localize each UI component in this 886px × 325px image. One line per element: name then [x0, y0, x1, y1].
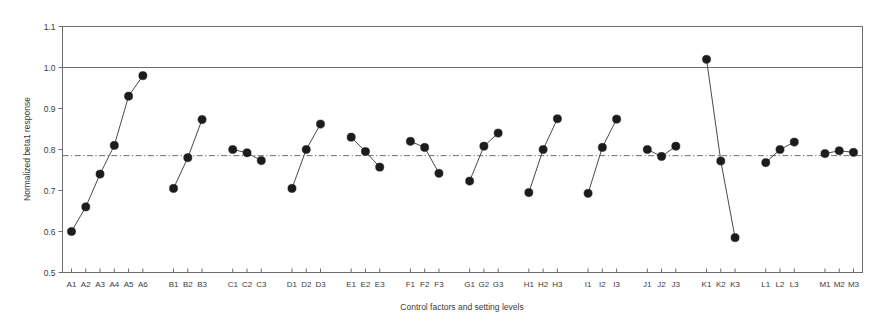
data-point-l1 — [762, 159, 770, 167]
data-point-a5 — [124, 92, 132, 100]
data-point-g2 — [480, 142, 488, 150]
data-point-j3 — [672, 142, 680, 150]
x-tick-label-c3: C3 — [256, 280, 267, 289]
x-tick-label-d1: D1 — [287, 280, 298, 289]
data-point-f1 — [406, 137, 414, 145]
y-tick-label: 0.8 — [44, 145, 56, 155]
x-tick-label-f1: F1 — [406, 280, 416, 289]
data-point-l2 — [776, 145, 784, 153]
data-point-a2 — [82, 203, 90, 211]
data-point-a6 — [139, 72, 147, 80]
data-point-k1 — [702, 55, 710, 63]
x-tick-label-h1: H1 — [524, 280, 535, 289]
x-tick-label-a3: A3 — [95, 280, 105, 289]
y-axis-title: Normalized beta1 response — [22, 97, 32, 201]
x-tick-label-g2: G2 — [479, 280, 490, 289]
x-tick-label-b3: B3 — [197, 280, 207, 289]
chart-background — [0, 0, 886, 325]
x-tick-label-j1: J1 — [643, 280, 652, 289]
data-point-h3 — [553, 115, 561, 123]
x-tick-label-d2: D2 — [301, 280, 312, 289]
x-tick-label-h2: H2 — [538, 280, 549, 289]
chart-figure: 0.50.60.70.80.91.01.1 A1A2A3A4A5A6B1B2B3… — [0, 0, 886, 325]
data-point-j1 — [643, 145, 651, 153]
data-point-g1 — [466, 177, 474, 185]
data-point-i3 — [613, 115, 621, 123]
data-point-h2 — [539, 145, 547, 153]
x-tick-label-a1: A1 — [67, 280, 77, 289]
x-tick-label-d3: D3 — [315, 280, 326, 289]
data-point-c2 — [243, 149, 251, 157]
x-tick-label-a6: A6 — [138, 280, 148, 289]
y-tick-label: 0.6 — [44, 227, 56, 237]
x-tick-label-m3: M3 — [848, 280, 860, 289]
data-point-m2 — [835, 147, 843, 155]
data-point-f3 — [435, 169, 443, 177]
data-point-a1 — [67, 227, 75, 235]
x-tick-label-f3: F3 — [434, 280, 444, 289]
x-tick-label-j3: J3 — [672, 280, 681, 289]
data-point-l3 — [790, 138, 798, 146]
data-point-a3 — [96, 170, 104, 178]
x-tick-label-m1: M1 — [819, 280, 831, 289]
x-tick-label-i2: I2 — [599, 280, 606, 289]
data-point-c1 — [229, 145, 237, 153]
data-point-f2 — [421, 143, 429, 151]
x-tick-label-i1: I1 — [585, 280, 592, 289]
data-point-d1 — [288, 184, 296, 192]
x-tick-label-a4: A4 — [109, 280, 119, 289]
x-tick-label-l3: L3 — [790, 280, 799, 289]
data-point-b1 — [169, 184, 177, 192]
data-point-g3 — [494, 129, 502, 137]
y-tick-label: 0.5 — [44, 268, 56, 278]
y-tick-label: 1.0 — [44, 63, 56, 73]
x-tick-label-k2: K2 — [716, 280, 726, 289]
x-tick-label-f2: F2 — [420, 280, 430, 289]
x-tick-label-h3: H3 — [552, 280, 563, 289]
x-tick-label-g3: G3 — [493, 280, 504, 289]
x-tick-label-a2: A2 — [81, 280, 91, 289]
data-point-d3 — [316, 120, 324, 128]
data-point-e3 — [376, 163, 384, 171]
data-point-b3 — [198, 115, 206, 123]
data-point-k3 — [731, 234, 739, 242]
x-tick-label-e2: E2 — [361, 280, 371, 289]
y-tick-label: 0.7 — [44, 186, 56, 196]
data-point-h1 — [525, 188, 533, 196]
x-tick-label-e1: E1 — [346, 280, 356, 289]
x-tick-label-i3: I3 — [613, 280, 620, 289]
x-tick-label-l1: L1 — [761, 280, 770, 289]
data-point-e2 — [361, 147, 369, 155]
x-tick-label-g1: G1 — [464, 280, 475, 289]
data-point-a4 — [110, 141, 118, 149]
x-tick-label-b2: B2 — [183, 280, 193, 289]
data-point-b2 — [184, 154, 192, 162]
x-tick-label-m2: M2 — [834, 280, 846, 289]
x-tick-label-b1: B1 — [169, 280, 179, 289]
x-tick-label-e3: E3 — [375, 280, 385, 289]
data-point-j2 — [657, 152, 665, 160]
normalized-beta1-response-chart: 0.50.60.70.80.91.01.1 A1A2A3A4A5A6B1B2B3… — [0, 0, 886, 325]
x-tick-label-j2: J2 — [657, 280, 666, 289]
y-tick-label: 1.1 — [44, 22, 56, 32]
data-point-m3 — [849, 148, 857, 156]
x-tick-label-a5: A5 — [124, 280, 134, 289]
data-point-i1 — [584, 189, 592, 197]
data-point-d2 — [302, 145, 310, 153]
data-point-c3 — [257, 156, 265, 164]
data-point-m1 — [821, 150, 829, 158]
x-tick-label-c1: C1 — [228, 280, 239, 289]
x-tick-label-k3: K3 — [730, 280, 740, 289]
x-tick-label-k1: K1 — [702, 280, 712, 289]
x-tick-label-l2: L2 — [776, 280, 785, 289]
x-axis-title: Control factors and setting levels — [400, 302, 523, 312]
data-point-e1 — [347, 133, 355, 141]
x-tick-label-c2: C2 — [242, 280, 253, 289]
y-tick-label: 0.9 — [44, 104, 56, 114]
data-point-k2 — [717, 157, 725, 165]
data-point-i2 — [598, 143, 606, 151]
